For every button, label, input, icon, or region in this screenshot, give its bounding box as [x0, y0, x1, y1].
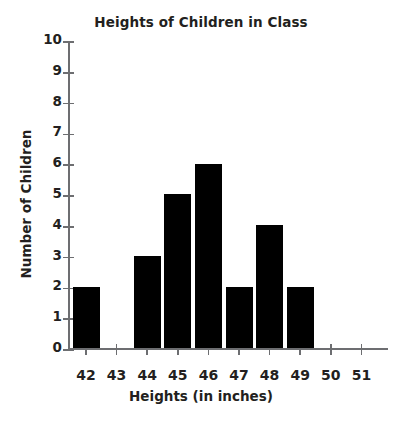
x-tick-mark	[116, 344, 118, 355]
y-tick-label: 7	[53, 125, 62, 139]
bar	[73, 287, 100, 349]
x-tick-mark	[330, 344, 332, 355]
y-tick-label: 9	[53, 64, 62, 78]
y-tick-label: 8	[53, 95, 62, 109]
plot-area: 012345678910 42434445464748495051	[68, 42, 388, 350]
y-tick-mark	[63, 72, 74, 74]
bar	[164, 194, 191, 348]
y-tick-mark	[63, 41, 74, 43]
bar	[287, 287, 314, 349]
y-tick-label: 2	[53, 279, 62, 293]
y-tick-mark	[63, 134, 74, 136]
y-tick-label: 5	[53, 187, 62, 201]
y-tick-mark	[63, 226, 74, 228]
bar	[256, 225, 283, 348]
y-tick-label: 0	[53, 341, 62, 355]
y-tick-label: 1	[53, 310, 62, 324]
x-tick-label: 51	[341, 368, 381, 382]
y-tick-label: 3	[53, 249, 62, 263]
bar-chart: Heights of Children in Class Number of C…	[0, 0, 402, 422]
x-axis-title: Heights (in inches)	[0, 388, 402, 404]
y-tick-mark	[63, 349, 74, 351]
y-tick-label: 10	[43, 33, 62, 47]
y-tick-mark	[63, 257, 74, 259]
bar	[226, 287, 253, 349]
x-tick-mark	[361, 344, 363, 355]
y-tick-label: 6	[53, 156, 62, 170]
y-tick-label: 4	[53, 218, 62, 232]
bar	[195, 164, 222, 349]
chart-title: Heights of Children in Class	[0, 14, 402, 30]
y-tick-mark	[63, 103, 74, 105]
y-tick-mark	[63, 164, 74, 166]
y-axis-title: Number of Children	[18, 124, 34, 284]
y-tick-mark	[63, 195, 74, 197]
bar	[134, 256, 161, 348]
